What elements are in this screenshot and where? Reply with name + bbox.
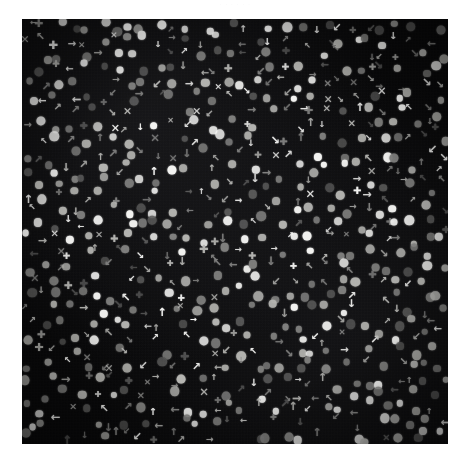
arrow-down-icon: ↓ [389, 31, 397, 41]
disc-icon [193, 88, 200, 95]
arrow-up-icon: ↑ [355, 103, 365, 114]
disc-icon [121, 245, 129, 253]
arrow-left-icon: ← [130, 262, 138, 271]
arrow-down-icon: ↓ [237, 356, 244, 364]
arrow-down-right-icon: ↘ [166, 46, 173, 55]
arrow-right-icon: → [185, 78, 194, 88]
plus-icon: ✚ [63, 252, 71, 261]
plus-icon: ✚ [178, 294, 185, 303]
disc-icon [346, 319, 356, 329]
arrow-up-icon: ↑ [150, 167, 159, 178]
disc-icon [229, 160, 237, 168]
disc-icon [110, 133, 117, 140]
plus-icon: ✚ [211, 237, 219, 247]
arrow-up-icon: ↑ [296, 133, 305, 144]
disc-icon [125, 179, 133, 187]
arrow-down-right-icon: ↘ [320, 257, 329, 267]
arrow-down-icon: ↓ [427, 117, 434, 125]
disc-icon [227, 50, 233, 56]
plus-icon: ✚ [167, 259, 174, 267]
arrow-right-icon: → [206, 435, 214, 444]
arrow-down-left-icon: ↙ [256, 66, 265, 77]
arrow-down-right-icon: ↘ [141, 236, 149, 246]
arrow-up-right-icon: ↗ [280, 398, 289, 409]
disc-icon [342, 66, 351, 75]
arrow-up-icon: ↑ [240, 24, 248, 33]
disc-icon [283, 23, 292, 32]
disc-icon [428, 343, 436, 351]
plus-icon: ✚ [215, 396, 222, 404]
disc-icon [403, 308, 412, 317]
arrow-down-left-icon: ↙ [304, 405, 312, 414]
disc-icon [49, 276, 58, 285]
disc-icon [405, 178, 414, 187]
disc-icon [162, 351, 171, 360]
disc-icon [148, 210, 156, 218]
arrow-down-right-icon: ↘ [367, 119, 374, 127]
disc-icon [426, 293, 434, 301]
arrow-right-icon: → [24, 120, 32, 130]
disc-icon [59, 207, 67, 215]
arrow-down-left-icon: ↙ [48, 344, 56, 354]
disc-icon [361, 438, 368, 444]
disc-icon [261, 47, 270, 56]
disc-icon [236, 317, 244, 325]
disc-icon [361, 322, 369, 330]
cross-icon: ✕ [210, 292, 219, 303]
disc-icon [307, 247, 314, 254]
arrow-up-icon: ↑ [91, 244, 99, 253]
disc-icon [287, 293, 293, 299]
cross-icon: ✕ [377, 86, 387, 97]
disc-icon [159, 64, 166, 71]
arrow-right-icon: → [391, 232, 400, 243]
disc-icon [334, 406, 341, 413]
arrow-up-right-icon: ↗ [151, 333, 159, 342]
disc-icon [151, 187, 158, 194]
cross-icon: ✕ [367, 167, 376, 178]
disc-icon [72, 146, 81, 155]
plus-icon: ✚ [248, 251, 256, 261]
disc-icon [71, 334, 79, 342]
disc-icon [93, 122, 103, 132]
disc-icon [85, 232, 92, 239]
arrow-up-right-icon: ↗ [124, 401, 133, 412]
disc-icon [190, 115, 199, 124]
disc-icon [129, 307, 136, 314]
arrow-down-left-icon: ↙ [311, 331, 320, 341]
disc-icon [340, 275, 348, 283]
arrow-down-right-icon: ↘ [366, 74, 374, 84]
arrow-up-right-icon: ↗ [56, 263, 64, 273]
arrow-left-icon: ← [240, 416, 247, 424]
arrow-up-icon: ↑ [24, 194, 34, 205]
disc-icon [366, 396, 373, 403]
disc-icon [150, 122, 158, 130]
arrow-up-icon: ↑ [170, 427, 178, 437]
plus-icon: ✚ [110, 234, 118, 244]
arrow-down-icon: ↓ [365, 201, 374, 212]
disc-icon [208, 97, 216, 105]
disc-icon [42, 261, 49, 268]
arrow-down-icon: ↓ [312, 25, 320, 35]
disc-icon [43, 321, 51, 329]
arrow-down-left-icon: ↙ [427, 144, 437, 155]
disc-icon [113, 27, 122, 36]
disc-icon [352, 158, 360, 166]
arrow-up-icon: ↑ [149, 407, 157, 417]
disc-icon [374, 382, 382, 390]
arrow-down-icon: ↓ [104, 422, 113, 433]
disc-icon [241, 235, 248, 242]
disc-icon [125, 140, 134, 149]
disc-icon [115, 316, 121, 322]
arrow-up-icon: ↑ [406, 376, 413, 384]
arrow-up-right-icon: ↗ [22, 303, 28, 311]
disc-icon [339, 107, 346, 114]
plus-icon: ✚ [34, 341, 43, 352]
arrow-up-right-icon: ↗ [180, 46, 188, 55]
disc-icon [222, 325, 230, 333]
arrow-right-icon: → [340, 345, 349, 355]
arrow-left-icon: ← [229, 260, 237, 270]
arrow-up-right-icon: ↗ [405, 35, 412, 43]
arrow-left-icon: ← [201, 68, 209, 78]
disc-icon [137, 31, 146, 40]
arrow-up-icon: ↑ [211, 373, 218, 381]
